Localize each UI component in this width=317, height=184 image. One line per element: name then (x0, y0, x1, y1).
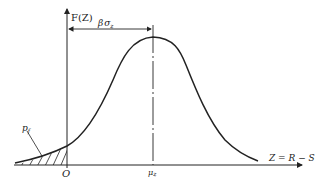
pf-label: pf (22, 123, 32, 135)
mean-label: μz (148, 168, 157, 177)
pf-leader-line (27, 131, 42, 156)
beta-sigma-label: βσz (97, 18, 114, 29)
density-curve (15, 37, 258, 163)
x-axis-label: Z = R − S (268, 153, 315, 163)
origin-label: O (62, 168, 70, 179)
reliability-diagram: F(Z) βσz pf O μz Z = R − S (0, 0, 317, 184)
y-axis-label: F(Z) (71, 12, 93, 23)
